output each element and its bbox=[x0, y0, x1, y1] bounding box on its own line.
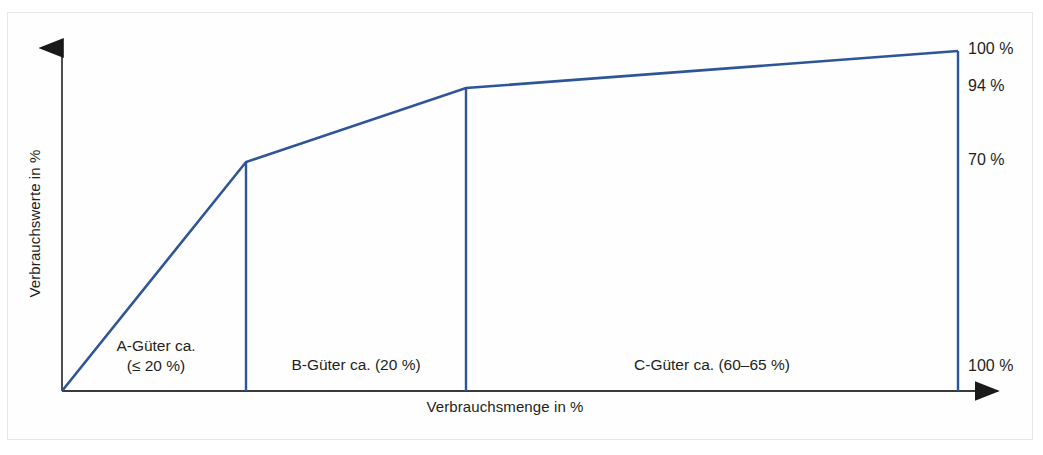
segment-label-b: B-Güter ca. (20 %) bbox=[256, 355, 456, 375]
abc-analysis-figure: Verbrauchswerte in % Verbrauchsmenge in … bbox=[0, 0, 1043, 455]
y-axis-title: Verbrauchswerte in % bbox=[26, 124, 43, 324]
value-label-94: 94 % bbox=[968, 77, 1004, 95]
segment-label-a-line1: A-Güter ca. bbox=[76, 336, 236, 356]
segment-label-c: C-Güter ca. (60–65 %) bbox=[476, 355, 948, 375]
segment-label-a: A-Güter ca. (≤ 20 %) bbox=[76, 336, 236, 377]
value-label-100-bottom: 100 % bbox=[968, 357, 1013, 375]
pareto-curve-chart bbox=[0, 0, 1043, 455]
x-axis-title: Verbrauchsmenge in % bbox=[0, 398, 1010, 415]
value-label-70: 70 % bbox=[968, 151, 1004, 169]
value-label-100-top: 100 % bbox=[968, 40, 1013, 58]
segment-label-a-line2: (≤ 20 %) bbox=[76, 356, 236, 376]
